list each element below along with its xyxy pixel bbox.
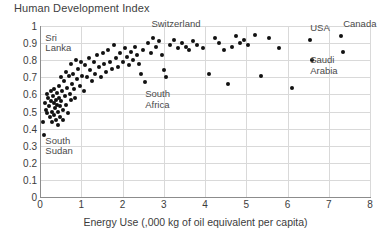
data-point bbox=[191, 39, 195, 43]
data-point bbox=[59, 99, 63, 103]
y-tick-label: 0 bbox=[3, 192, 37, 203]
data-point bbox=[339, 34, 343, 38]
gridline-vertical bbox=[123, 26, 124, 197]
y-tick-label: 1 bbox=[3, 21, 37, 32]
data-point bbox=[164, 75, 168, 79]
data-point bbox=[176, 46, 180, 50]
data-point bbox=[129, 50, 133, 54]
y-tick-label: 0.2 bbox=[3, 157, 37, 168]
data-point bbox=[127, 63, 131, 67]
data-point bbox=[277, 46, 281, 50]
data-point bbox=[74, 58, 78, 62]
data-point bbox=[180, 41, 184, 45]
data-point bbox=[66, 111, 70, 115]
y-tick-label: 0.6 bbox=[3, 89, 37, 100]
data-point bbox=[141, 48, 145, 52]
gridline-vertical bbox=[370, 26, 371, 197]
data-point bbox=[71, 72, 75, 76]
data-point bbox=[310, 58, 314, 62]
data-point bbox=[242, 38, 246, 42]
data-point bbox=[207, 72, 211, 76]
data-point bbox=[154, 45, 158, 49]
point-annotation: USA bbox=[310, 23, 330, 34]
data-point bbox=[104, 70, 108, 74]
x-tick-label: 2 bbox=[120, 199, 126, 210]
data-point bbox=[201, 46, 205, 50]
data-point bbox=[114, 56, 118, 60]
data-point bbox=[83, 63, 87, 67]
data-point bbox=[52, 113, 56, 117]
data-point bbox=[54, 118, 58, 122]
data-point bbox=[60, 89, 64, 93]
data-point bbox=[125, 55, 129, 59]
data-point bbox=[47, 104, 51, 108]
y-tick-label: 0.1 bbox=[3, 174, 37, 185]
data-point bbox=[62, 79, 66, 83]
y-tick-label: 0.8 bbox=[3, 55, 37, 66]
data-point bbox=[72, 87, 76, 91]
point-annotation: Switzerland bbox=[151, 19, 200, 30]
data-point bbox=[42, 133, 46, 137]
x-tick-label: 7 bbox=[326, 199, 332, 210]
data-point bbox=[80, 74, 84, 78]
data-point bbox=[217, 41, 221, 45]
data-point bbox=[75, 77, 79, 81]
y-tick-label: 0.5 bbox=[3, 106, 37, 117]
data-point bbox=[187, 48, 191, 52]
data-point bbox=[99, 75, 103, 79]
x-tick-label: 5 bbox=[243, 199, 249, 210]
scatter-chart: Human Development Index Sri LankaSouth S… bbox=[0, 0, 391, 238]
data-point bbox=[88, 68, 92, 72]
point-annotation: Canada bbox=[343, 19, 376, 30]
data-point bbox=[57, 84, 61, 88]
data-point bbox=[106, 48, 110, 52]
data-point bbox=[93, 72, 97, 76]
data-point bbox=[64, 103, 68, 107]
x-axis-ticks: 012345678 bbox=[40, 199, 371, 213]
data-point bbox=[112, 43, 116, 47]
data-point bbox=[82, 89, 86, 93]
data-point bbox=[56, 110, 60, 114]
data-point bbox=[92, 60, 96, 64]
data-point bbox=[101, 51, 105, 55]
data-point bbox=[69, 98, 73, 102]
plot-area: Sri LankaSouth SudanSouth AfricaSwitzerl… bbox=[40, 26, 370, 197]
data-point bbox=[162, 68, 166, 72]
data-point bbox=[118, 51, 122, 55]
data-point bbox=[87, 56, 91, 60]
data-point bbox=[97, 65, 101, 69]
y-axis-line bbox=[40, 26, 41, 198]
x-tick-label: 0 bbox=[37, 199, 43, 210]
data-point bbox=[76, 67, 80, 71]
data-point bbox=[65, 86, 69, 90]
data-point bbox=[259, 74, 263, 78]
data-point bbox=[41, 120, 45, 124]
data-point bbox=[172, 38, 176, 42]
data-point bbox=[95, 53, 99, 57]
data-point bbox=[108, 60, 112, 64]
gridline-vertical bbox=[329, 26, 330, 197]
data-point bbox=[149, 51, 153, 55]
y-tick-label: 0.4 bbox=[3, 123, 37, 134]
x-axis-line bbox=[40, 197, 371, 198]
data-point bbox=[195, 43, 199, 47]
x-axis-label: Energy Use (,000 kg of oil equivalent pe… bbox=[0, 216, 391, 228]
data-point bbox=[234, 34, 238, 38]
data-point bbox=[139, 72, 143, 76]
data-point bbox=[341, 50, 345, 54]
y-tick-label: 0.9 bbox=[3, 38, 37, 49]
data-point bbox=[135, 53, 139, 57]
data-point bbox=[63, 94, 67, 98]
data-point bbox=[308, 38, 312, 42]
data-point bbox=[133, 45, 137, 49]
data-point bbox=[160, 53, 164, 57]
gridline-vertical bbox=[246, 26, 247, 197]
gridline-vertical bbox=[81, 26, 82, 197]
data-point bbox=[246, 43, 250, 47]
x-tick-label: 6 bbox=[285, 199, 291, 210]
y-tick-label: 0.3 bbox=[3, 140, 37, 151]
data-point bbox=[131, 58, 135, 62]
x-tick-label: 1 bbox=[78, 199, 84, 210]
data-point bbox=[213, 36, 217, 40]
data-point bbox=[121, 60, 125, 64]
